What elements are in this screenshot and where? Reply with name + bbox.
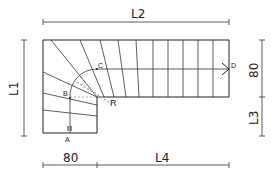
point-b-marker [69, 97, 71, 99]
dimension-l2: L2 [131, 7, 145, 21]
dimension-top: L2 [43, 7, 229, 25]
label-r: R [110, 98, 117, 108]
dimension-right-upper: 80 [247, 63, 261, 78]
winder-treads [43, 40, 139, 116]
label-c: C [98, 62, 103, 69]
dimension-right: 80 L3 [247, 40, 265, 136]
dimension-l3: L3 [247, 111, 261, 125]
staircase-plan: A B C D R II L2 L1 80 L3 80 L4 [0, 0, 280, 176]
stair-outline [43, 40, 229, 133]
dimension-bottom: 80 L4 [43, 151, 229, 168]
dimension-l4: L4 [155, 151, 169, 165]
dimension-left: L1 [7, 40, 27, 136]
dimension-bottom-left: 80 [63, 151, 78, 165]
label-b: B [63, 90, 68, 97]
turn-walkline [70, 69, 97, 98]
radius-line [77, 82, 112, 104]
label-d: D [231, 62, 236, 69]
label-a: A [65, 136, 70, 143]
dimension-l1: L1 [7, 82, 21, 96]
upper-treads [153, 40, 213, 97]
